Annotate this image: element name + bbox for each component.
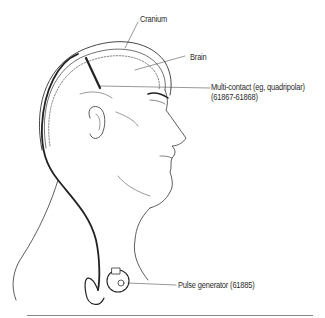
ear	[89, 106, 105, 138]
cranium-outer	[44, 49, 165, 148]
lead-wire-scalp	[42, 54, 99, 290]
neck-back	[13, 180, 58, 300]
face-profile	[150, 90, 186, 208]
head-profile-illustration	[0, 0, 325, 318]
pulse-generator-label: Pulse generator (61885)	[178, 280, 255, 290]
cranium-leader	[125, 22, 138, 48]
electrode-leader	[100, 86, 210, 88]
eye	[148, 93, 168, 98]
electrode-label-line2: (61867-61868)	[211, 92, 258, 102]
neck-front	[134, 208, 150, 280]
lead-loop	[85, 278, 104, 304]
head-outline	[39, 42, 171, 150]
neurostimulator-diagram: Cranium Brain Multi-contact (eg, quadrip…	[0, 0, 325, 318]
cranium-label: Cranium	[140, 14, 167, 24]
bottom-divider	[27, 315, 313, 316]
electrode	[86, 58, 100, 88]
pulse-generator-leader	[128, 283, 176, 285]
electrode-label-line1: Multi-contact (eg, quadripolar)	[211, 82, 305, 92]
brain-label: Brain	[190, 52, 207, 62]
